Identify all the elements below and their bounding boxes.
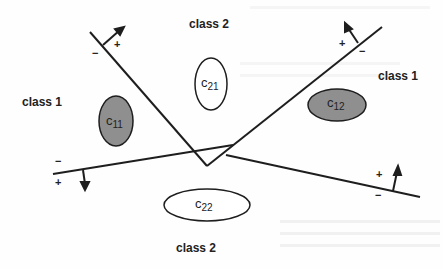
arrowhead-icon — [81, 182, 89, 190]
diagram-svg: + − + − − + + − class 2 class 1 class 1 … — [0, 0, 443, 269]
plus-sign: + — [55, 176, 61, 188]
hyperplane-line-3 — [53, 145, 233, 174]
arrowhead-icon — [394, 166, 401, 175]
class-label-class2-top: class 2 — [189, 17, 229, 31]
plus-sign: + — [114, 38, 120, 50]
cluster-c22: c22 — [164, 189, 250, 221]
plus-sign: + — [376, 168, 382, 180]
minus-sign: − — [375, 189, 381, 201]
plus-sign: + — [339, 37, 345, 49]
cluster-c11: c11 — [99, 96, 133, 146]
minus-sign: − — [55, 155, 61, 167]
cluster-c21: c21 — [195, 58, 227, 110]
minus-sign: − — [359, 45, 365, 57]
class-label-class1-right: class 1 — [378, 69, 418, 83]
minus-sign: − — [92, 47, 98, 59]
cluster-c12: c12 — [308, 89, 366, 121]
class-label-class2-bottom: class 2 — [176, 241, 216, 255]
hyperplane-diagram: + − + − − + + − class 2 class 1 class 1 … — [0, 0, 443, 269]
hyperplane-line-4 — [226, 155, 420, 197]
class-label-class1-left: class 1 — [22, 95, 62, 109]
